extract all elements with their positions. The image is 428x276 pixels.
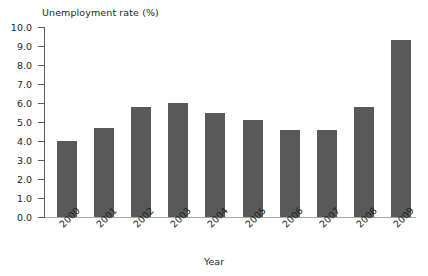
bar-slot	[280, 27, 300, 217]
y-axis-tick	[38, 217, 45, 218]
plot-area: 0.01.02.03.04.05.06.07.08.09.010.0	[44, 27, 416, 217]
y-axis-tick-label: 10.0	[2, 22, 32, 33]
y-axis-tick-label: 6.0	[2, 98, 32, 109]
x-axis-title: Year	[0, 256, 428, 267]
y-axis-tick-label: 1.0	[2, 193, 32, 204]
bar-slot	[391, 27, 411, 217]
bar[interactable]	[168, 103, 188, 217]
y-axis-tick-label: 8.0	[2, 60, 32, 71]
bar-chart-figure: Unemployment rate (%) 0.01.02.03.04.05.0…	[0, 0, 428, 276]
y-axis-tick-label: 7.0	[2, 79, 32, 90]
bar-slot	[205, 27, 225, 217]
y-axis-tick-label: 2.0	[2, 174, 32, 185]
y-axis-tick-label: 9.0	[2, 41, 32, 52]
y-axis-title: Unemployment rate (%)	[42, 7, 159, 18]
bar-slot	[57, 27, 77, 217]
bar[interactable]	[391, 40, 411, 217]
y-axis-tick-label: 3.0	[2, 155, 32, 166]
bar-slot	[354, 27, 374, 217]
bar[interactable]	[131, 107, 151, 217]
bar[interactable]	[243, 120, 263, 217]
bar-slot	[168, 27, 188, 217]
bar-slot	[243, 27, 263, 217]
y-axis-tick-label: 4.0	[2, 136, 32, 147]
bar-slot	[94, 27, 114, 217]
bar-slot	[317, 27, 337, 217]
bars-layer	[44, 27, 416, 217]
y-axis-tick-label: 0.0	[2, 212, 32, 223]
bar[interactable]	[354, 107, 374, 217]
bar-slot	[131, 27, 151, 217]
bar[interactable]	[205, 113, 225, 218]
y-axis-tick-label: 5.0	[2, 117, 32, 128]
